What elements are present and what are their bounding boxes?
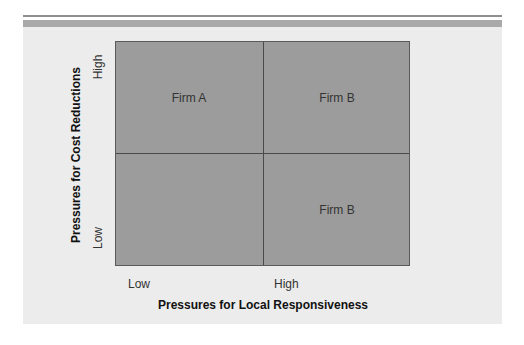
top-band: [23, 20, 502, 27]
cell-top-left-label: Firm A: [172, 91, 207, 105]
y-tick-high: High: [91, 55, 105, 80]
y-tick-low: Low: [91, 227, 105, 249]
y-axis-title: Pressures for Cost Reductions: [69, 67, 83, 243]
horizontal-divider: [116, 153, 409, 154]
matrix-grid: Firm A Firm B Firm B: [115, 41, 410, 266]
x-axis-title: Pressures for Local Responsiveness: [158, 298, 368, 312]
top-rule: [23, 15, 502, 17]
cell-top-right-label: Firm B: [319, 91, 354, 105]
x-tick-high: High: [274, 277, 299, 291]
cell-bottom-right-label: Firm B: [319, 203, 354, 217]
x-tick-low: Low: [128, 277, 150, 291]
